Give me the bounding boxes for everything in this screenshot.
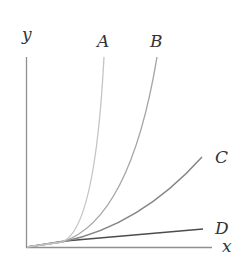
curve-c (27, 157, 202, 247)
x-axis-label: x (222, 238, 232, 255)
curve-d (27, 229, 203, 247)
plot-area (0, 0, 249, 267)
curve-a (27, 57, 104, 247)
curve-b (27, 57, 157, 247)
growth-curves-diagram: y x A B C D (0, 0, 249, 267)
curve-label-d: D (215, 220, 229, 237)
y-axis-label: y (22, 26, 32, 43)
curve-label-b: B (150, 33, 163, 50)
curve-label-a: A (97, 33, 109, 50)
curve-label-c: C (215, 149, 228, 166)
